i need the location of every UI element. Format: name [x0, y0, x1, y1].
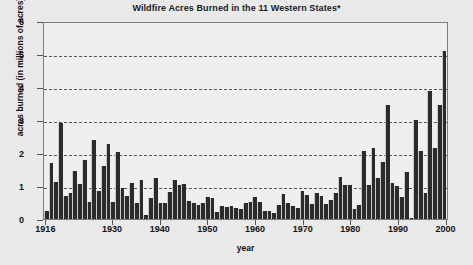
y-tick-label-2: 2: [0, 149, 24, 159]
bar-2000: [442, 51, 447, 219]
x-tick-label-1930: 1930: [102, 224, 122, 234]
bar-1992: [404, 172, 409, 219]
y-tick-mark-1: [37, 187, 43, 188]
y-tick-label-5: 5: [0, 50, 24, 60]
chart-figure: Wildfire Acres Burned in the 11 Western …: [0, 0, 473, 265]
y-tick-mark-0: [37, 220, 43, 221]
x-tick-mark-1990: [398, 220, 399, 225]
x-tick-mark-2000: [446, 220, 447, 225]
bar-1936: [139, 180, 144, 219]
y-tick-label-0: 0: [0, 215, 24, 225]
x-tick-mark-1916: [45, 220, 46, 225]
x-tick-mark-1980: [350, 220, 351, 225]
bar-series: [44, 23, 447, 219]
x-tick-mark-1940: [160, 220, 161, 225]
x-tick-label-2000: 2000: [436, 224, 456, 234]
page-title: Wildfire Acres Burned in the 11 Western …: [0, 3, 473, 13]
y-tick-mark-4: [37, 88, 43, 89]
x-tick-label-1960: 1960: [245, 224, 265, 234]
y-tick-label-6: 6: [0, 17, 24, 27]
x-tick-mark-1930: [112, 220, 113, 225]
x-tick-label-1980: 1980: [340, 224, 360, 234]
y-tick-mark-6: [37, 22, 43, 23]
x-tick-label-1970: 1970: [293, 224, 313, 234]
y-tick-label-1: 1: [0, 182, 24, 192]
x-tick-mark-1960: [255, 220, 256, 225]
y-tick-label-3: 3: [0, 116, 24, 126]
x-tick-mark-1950: [207, 220, 208, 225]
x-tick-label-1950: 1950: [197, 224, 217, 234]
x-axis-label: year: [43, 243, 448, 253]
y-tick-mark-3: [37, 121, 43, 122]
y-tick-label-4: 4: [0, 83, 24, 93]
x-tick-label-1916: 1916: [35, 224, 55, 234]
y-tick-mark-5: [37, 55, 43, 56]
x-tick-label-1990: 1990: [388, 224, 408, 234]
x-tick-label-1940: 1940: [150, 224, 170, 234]
x-tick-mark-1970: [303, 220, 304, 225]
y-tick-mark-2: [37, 154, 43, 155]
plot-area: [43, 22, 448, 220]
